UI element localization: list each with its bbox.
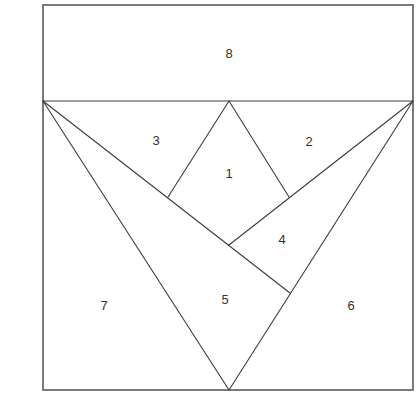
kite-right-upper-line bbox=[229, 101, 289, 197]
left-diagonal-line bbox=[43, 101, 290, 293]
seam-lines bbox=[43, 101, 413, 390]
piece-label-7: 7 bbox=[100, 298, 107, 313]
piece-label-5: 5 bbox=[221, 292, 228, 307]
quilt-block-diagram: 1 2 3 4 5 6 7 8 bbox=[0, 0, 416, 396]
piece-label-6: 6 bbox=[347, 298, 354, 313]
piece-label-8: 8 bbox=[225, 46, 232, 61]
piece-label-3: 3 bbox=[152, 133, 159, 148]
right-diagonal-line bbox=[229, 101, 413, 245]
piece-label-4: 4 bbox=[278, 232, 285, 247]
piece-label-1: 1 bbox=[225, 166, 232, 181]
piece-labels: 1 2 3 4 5 6 7 8 bbox=[100, 46, 354, 313]
outer-border bbox=[43, 5, 413, 390]
kite-left-upper-line bbox=[168, 101, 229, 197]
piece-label-2: 2 bbox=[305, 134, 312, 149]
